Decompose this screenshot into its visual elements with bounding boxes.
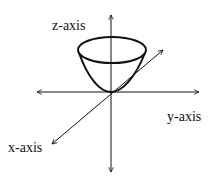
x-axis-line: [52, 50, 163, 144]
y-axis-label: y-axis: [167, 110, 201, 124]
z-axis-label: z-axis: [52, 19, 85, 33]
x-axis-label: x-axis: [8, 141, 42, 155]
paraboloid-rim: [78, 37, 146, 63]
diagram-canvas: [0, 0, 215, 183]
